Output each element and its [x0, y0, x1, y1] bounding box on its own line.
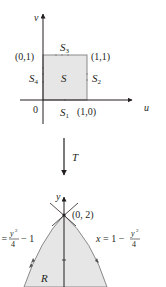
- origin-label: 0: [33, 104, 38, 115]
- vertex-label: (0, 2): [72, 209, 94, 221]
- side-s2-label: S2: [92, 72, 102, 86]
- right-curve-equation: x = 1 − y 2 4: [95, 228, 140, 249]
- svg-text:y: y: [9, 229, 14, 238]
- diagram-canvas: v u 0 (0,1) (1,1) (1,0) S S3 S2 S4 S1 T: [0, 0, 166, 287]
- side-s4-label: S4: [29, 72, 39, 86]
- svg-text:x =: x =: [0, 233, 8, 244]
- region-s-label: S: [61, 72, 67, 84]
- svg-text:4: 4: [132, 240, 136, 249]
- uv-plane: v u 0 (0,1) (1,1) (1,0) S S3 S2 S4 S1: [15, 12, 149, 124]
- transformation-t: T: [64, 138, 79, 175]
- side-s1-label: S1: [60, 106, 70, 120]
- left-curve-equation: x = y 2 4 − 1: [0, 228, 34, 249]
- svg-text:2: 2: [136, 228, 139, 233]
- corner-label-1-1: (1,1): [91, 51, 110, 63]
- region-r-label: R: [40, 272, 48, 284]
- transform-label: T: [72, 151, 79, 163]
- svg-text:− 1: − 1: [21, 233, 34, 244]
- side-s3-label: S3: [60, 41, 70, 55]
- svg-text:= 1 −: = 1 −: [103, 233, 125, 244]
- y-axis-label: y: [55, 191, 61, 202]
- corner-label-1-0: (1,0): [77, 106, 96, 118]
- svg-text:2: 2: [15, 228, 18, 233]
- region-r: [24, 215, 107, 287]
- v-axis-label: v: [34, 12, 39, 23]
- svg-text:4: 4: [11, 240, 15, 249]
- u-axis-label: u: [144, 102, 149, 113]
- vertex-point: [62, 213, 65, 216]
- corner-label-0-1: (0,1): [15, 51, 34, 63]
- xy-plane: y (0, 2) R x = y 2 4 − 1 x = 1 − y 2 4: [0, 191, 140, 287]
- svg-text:y: y: [130, 229, 135, 238]
- svg-text:x: x: [95, 233, 101, 244]
